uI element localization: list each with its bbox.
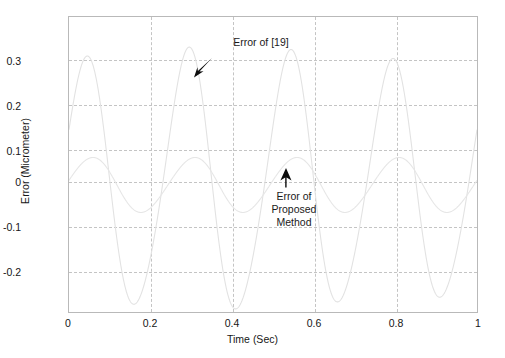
annotation-proposed-label: Error of Proposed Method bbox=[239, 190, 349, 229]
y-tick-label: 0.1 bbox=[0, 146, 21, 156]
annotation-reference-label: Error of [19] bbox=[201, 36, 321, 49]
arrow-down-left-icon bbox=[191, 57, 213, 79]
y-tick-label: 0 bbox=[0, 177, 21, 187]
x-tick-label: 0.2 bbox=[120, 318, 180, 329]
y-tick-label: -0.2 bbox=[0, 267, 21, 277]
y-axis-title: Error (Micrometer) bbox=[19, 91, 31, 231]
x-tick-label: 0.6 bbox=[284, 318, 344, 329]
x-axis-title: Time (Sec) bbox=[0, 333, 505, 345]
x-tick-label: 1 bbox=[448, 318, 505, 329]
chart-figure: 0.3 0.2 0.1 0 -0.1 -0.2 0 0.2 0.4 0.6 0.… bbox=[0, 0, 505, 358]
arrow-up-icon bbox=[277, 168, 295, 188]
annotation-layer bbox=[69, 17, 477, 312]
annotation-proposed-line2: Proposed bbox=[239, 203, 349, 216]
annotation-proposed-line1: Error of bbox=[239, 190, 349, 203]
x-tick-label: 0.8 bbox=[366, 318, 426, 329]
y-tick-label: -0.1 bbox=[0, 222, 21, 232]
y-tick-label: 0.3 bbox=[0, 56, 21, 66]
plot-area bbox=[68, 16, 478, 313]
y-tick-label: 0.2 bbox=[0, 101, 21, 111]
annotation-proposed-line3: Method bbox=[239, 216, 349, 229]
x-tick-label: 0 bbox=[38, 318, 98, 329]
x-tick-label: 0.4 bbox=[202, 318, 262, 329]
